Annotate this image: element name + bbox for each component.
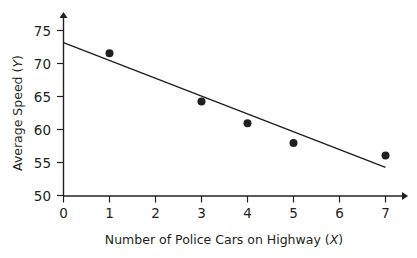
y-tick-label-60: 60 (34, 122, 51, 138)
x-tick-label-5: 5 (289, 205, 298, 221)
x-axis-title: Number of Police Cars on Highway (X) (105, 232, 343, 247)
x-axis: 0 1 2 3 4 5 6 7 (59, 196, 404, 221)
y-tick-label-50: 50 (34, 188, 51, 204)
x-tick-label-2: 2 (151, 205, 160, 221)
regression-line (64, 43, 386, 168)
x-tick-label-3: 3 (197, 205, 206, 221)
x-tick-label-1: 1 (105, 205, 114, 221)
scatter-plot-figure: 75 70 65 60 55 50 0 1 2 3 4 5 6 (0, 0, 417, 258)
x-tick-label-0: 0 (59, 205, 68, 221)
data-point (198, 98, 206, 106)
y-tick-label-75: 75 (34, 23, 51, 39)
data-point (382, 152, 390, 160)
data-points-group (106, 49, 390, 159)
chart-canvas: 75 70 65 60 55 50 0 1 2 3 4 5 6 (0, 0, 417, 258)
data-point (244, 119, 252, 127)
x-tick-label-6: 6 (335, 205, 344, 221)
y-tick-label-65: 65 (34, 89, 51, 105)
x-axis-title-variable: X (329, 232, 339, 247)
y-axis-title-text: Average Speed (10, 76, 25, 171)
x-axis-title-text: Number of Police Cars on Highway (105, 232, 322, 247)
data-point (290, 139, 298, 147)
x-tick-label-4: 4 (243, 205, 252, 221)
y-axis: 75 70 65 60 55 50 (34, 16, 64, 204)
x-tick-label-7: 7 (381, 205, 390, 221)
data-point (106, 49, 114, 57)
y-tick-label-70: 70 (34, 56, 51, 72)
y-axis-title: Average Speed (Y) (10, 55, 25, 171)
y-tick-label-55: 55 (34, 155, 51, 171)
